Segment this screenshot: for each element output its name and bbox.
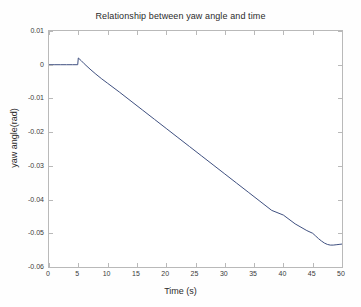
x-axis-tick xyxy=(78,31,79,35)
y-axis-tick xyxy=(338,233,342,234)
x-axis-label: Time (s) xyxy=(0,286,361,296)
x-axis-tick-label: 0 xyxy=(46,270,50,277)
x-axis-tick-label: 50 xyxy=(337,270,345,277)
y-axis-tick xyxy=(338,98,342,99)
y-axis-tick-label: -0.04 xyxy=(8,195,44,202)
x-axis-tick xyxy=(254,263,255,267)
y-axis-tick xyxy=(49,200,53,201)
x-axis-tick xyxy=(196,263,197,267)
y-axis-tick-label: -0.05 xyxy=(8,229,44,236)
x-axis-tick xyxy=(313,263,314,267)
x-axis-tick xyxy=(283,263,284,267)
y-axis-tick xyxy=(338,65,342,66)
x-axis-tick xyxy=(254,31,255,35)
y-axis-tick xyxy=(338,31,342,32)
y-axis-tick xyxy=(338,200,342,201)
y-axis-tick-label: -0.06 xyxy=(8,263,44,270)
y-axis-tick xyxy=(338,166,342,167)
plot-area xyxy=(48,30,343,268)
x-axis-tick xyxy=(166,263,167,267)
plot-inner xyxy=(49,31,342,267)
x-axis-tick xyxy=(283,31,284,35)
x-axis-tick xyxy=(137,263,138,267)
y-axis-tick xyxy=(49,31,53,32)
y-axis-tick-label: -0.01 xyxy=(8,94,44,101)
x-axis-tick xyxy=(313,31,314,35)
x-axis-tick-label: 25 xyxy=(191,270,199,277)
x-axis-tick xyxy=(342,263,343,267)
x-axis-tick-label: 35 xyxy=(249,270,257,277)
x-axis-tick xyxy=(196,31,197,35)
x-axis-tick xyxy=(225,263,226,267)
y-axis-tick xyxy=(338,132,342,133)
x-axis-tick xyxy=(108,263,109,267)
y-axis-tick xyxy=(49,267,53,268)
y-axis-tick xyxy=(49,65,53,66)
x-axis-tick-label: 45 xyxy=(308,270,316,277)
y-axis-tick-label: 0 xyxy=(8,60,44,67)
y-axis-tick xyxy=(338,267,342,268)
chart-title: Relationship between yaw angle and time xyxy=(0,11,361,21)
chart-figure: Relationship between yaw angle and time … xyxy=(0,0,361,307)
x-axis-tick xyxy=(225,31,226,35)
x-axis-tick xyxy=(166,31,167,35)
y-axis-tick xyxy=(49,166,53,167)
x-axis-tick-label: 5 xyxy=(75,270,79,277)
y-axis-tick-label: -0.03 xyxy=(8,161,44,168)
x-axis-tick xyxy=(342,31,343,35)
series-yaw-angle xyxy=(49,31,342,267)
x-axis-tick-label: 10 xyxy=(103,270,111,277)
x-axis-tick xyxy=(108,31,109,35)
x-axis-tick xyxy=(137,31,138,35)
x-axis-tick-label: 20 xyxy=(161,270,169,277)
y-axis-tick-label: 0.01 xyxy=(8,27,44,34)
x-axis-tick-label: 40 xyxy=(278,270,286,277)
x-axis-tick xyxy=(78,263,79,267)
x-axis-tick-label: 30 xyxy=(220,270,228,277)
y-axis-tick-label: -0.02 xyxy=(8,128,44,135)
y-axis-tick xyxy=(49,233,53,234)
x-axis-tick-label: 15 xyxy=(132,270,140,277)
y-axis-tick xyxy=(49,132,53,133)
y-axis-tick xyxy=(49,98,53,99)
